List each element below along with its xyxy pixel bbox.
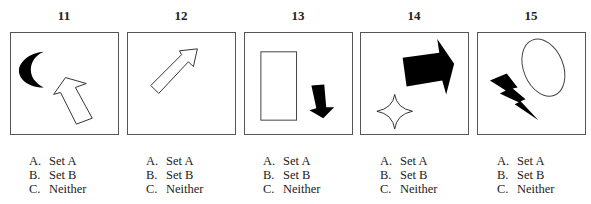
question-number-12: 12 [126, 8, 236, 24]
question-number-13: 13 [243, 8, 353, 24]
question-number-15: 15 [476, 8, 586, 24]
answer-options-12: A.Set A B.Set B C.Neither [146, 154, 203, 196]
option-c[interactable]: C.Neither [497, 182, 554, 196]
figure-panel-15 [477, 32, 586, 135]
option-letter: B. [497, 168, 517, 182]
option-label: Set A [49, 154, 76, 168]
option-a[interactable]: A.Set A [146, 154, 203, 168]
option-letter: A. [380, 154, 400, 168]
four-point-star-icon [377, 94, 413, 129]
option-b[interactable]: B.Set B [263, 168, 320, 182]
option-label: Neither [283, 182, 320, 196]
option-c[interactable]: C.Neither [29, 182, 86, 196]
option-label: Set A [400, 154, 427, 168]
option-letter: C. [146, 182, 166, 196]
option-label: Neither [517, 182, 554, 196]
option-label: Neither [166, 182, 203, 196]
option-a[interactable]: A.Set A [497, 154, 554, 168]
option-letter: C. [29, 182, 49, 196]
option-letter: B. [380, 168, 400, 182]
crescent-icon [19, 52, 44, 88]
option-letter: A. [146, 154, 166, 168]
option-a[interactable]: A.Set A [263, 154, 320, 168]
figure-panel-14 [360, 32, 469, 135]
arrow-up-left-icon [54, 78, 93, 125]
figure-panel-11 [10, 32, 119, 135]
option-label: Set A [166, 154, 193, 168]
option-b[interactable]: B.Set B [380, 168, 437, 182]
option-letter: B. [263, 168, 283, 182]
rectangle-icon [261, 52, 297, 120]
option-letter: C. [380, 182, 400, 196]
option-a[interactable]: A.Set A [380, 154, 437, 168]
option-label: Set B [49, 168, 76, 182]
option-letter: A. [263, 154, 283, 168]
question-number-11: 11 [9, 8, 119, 24]
option-c[interactable]: C.Neither [380, 182, 437, 196]
arrow-down-icon [309, 85, 334, 119]
option-letter: B. [29, 168, 49, 182]
figure-panel-12 [127, 32, 236, 135]
answer-options-15: A.Set A B.Set B C.Neither [497, 154, 554, 196]
question-number-14: 14 [359, 8, 469, 24]
ellipse-icon [514, 33, 573, 103]
option-label: Neither [49, 182, 86, 196]
option-letter: A. [29, 154, 49, 168]
option-label: Set A [517, 154, 544, 168]
option-a[interactable]: A.Set A [29, 154, 86, 168]
answer-options-13: A.Set A B.Set B C.Neither [263, 154, 320, 196]
option-label: Set A [283, 154, 310, 168]
option-letter: C. [497, 182, 517, 196]
option-b[interactable]: B.Set B [497, 168, 554, 182]
option-label: Set B [283, 168, 310, 182]
option-label: Set B [166, 168, 193, 182]
option-b[interactable]: B.Set B [146, 168, 203, 182]
option-letter: A. [497, 154, 517, 168]
option-label: Set B [400, 168, 427, 182]
option-label: Set B [517, 168, 544, 182]
figure-panel-13 [244, 32, 353, 135]
answer-options-14: A.Set A B.Set B C.Neither [380, 154, 437, 196]
option-letter: C. [263, 182, 283, 196]
option-label: Neither [400, 182, 437, 196]
answer-options-11: A.Set A B.Set B C.Neither [29, 154, 86, 196]
block-arrow-right-icon [403, 39, 455, 94]
option-letter: B. [146, 168, 166, 182]
option-c[interactable]: C.Neither [263, 182, 320, 196]
arrow-up-right-icon [151, 49, 198, 94]
option-c[interactable]: C.Neither [146, 182, 203, 196]
option-b[interactable]: B.Set B [29, 168, 86, 182]
